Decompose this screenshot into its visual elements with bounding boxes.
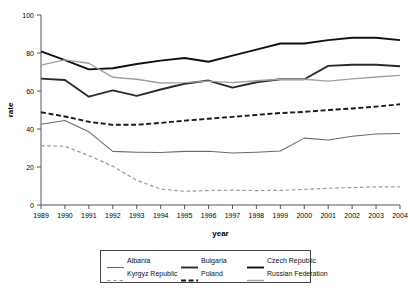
chart-screenshot: 0204060801001989199019911992199319941995… — [0, 0, 410, 297]
x-axis-tick-label: 1989 — [33, 212, 49, 219]
x-axis-tick-label: 1996 — [201, 212, 217, 219]
legend-line-swatch — [107, 257, 124, 264]
series-line-albania — [41, 120, 400, 152]
y-axis-tick-label: 60 — [26, 88, 34, 95]
x-axis-tick-label: 1995 — [177, 212, 193, 219]
series-line-russian-federation — [41, 60, 400, 83]
x-axis-tick-label: 2003 — [368, 212, 384, 219]
legend-item-kyrgyz-republic[interactable]: Kyrgyz Republic — [107, 270, 181, 278]
y-axis-tick-label: 100 — [22, 12, 34, 19]
x-axis-tick-label: 1990 — [57, 212, 73, 219]
chart-canvas: 0204060801001989199019911992199319941995… — [0, 0, 410, 245]
y-axis-title: rate — [6, 102, 15, 117]
x-axis-tick-label: 1991 — [81, 212, 97, 219]
legend-line-swatch — [247, 257, 264, 264]
x-axis-tick-label: 1997 — [225, 212, 241, 219]
legend-label: Czech Republic — [267, 257, 316, 265]
x-axis-tick-label: 2004 — [392, 212, 408, 219]
x-axis-tick-label: 1993 — [129, 212, 145, 219]
x-axis-tick-label: 1998 — [249, 212, 265, 219]
legend-label: Albania — [127, 257, 150, 265]
line-chart-svg: 0204060801001989199019911992199319941995… — [0, 0, 410, 245]
data-series — [41, 38, 400, 192]
y-axis-tick-label: 40 — [26, 126, 34, 133]
y-axis-tick-label: 20 — [26, 164, 34, 171]
x-axis-tick-label: 2002 — [344, 212, 360, 219]
legend-line-swatch — [181, 270, 198, 277]
legend-item-russian-federation[interactable]: Russian Federation — [247, 270, 317, 278]
chart-legend: AlbaniaBulgariaCzech RepublicKyrgyz Repu… — [100, 250, 311, 283]
legend-line-swatch — [247, 270, 264, 277]
x-axis-tick-label: 1999 — [273, 212, 289, 219]
legend-line-swatch — [181, 257, 198, 264]
legend-grid: AlbaniaBulgariaCzech RepublicKyrgyz Repu… — [107, 254, 308, 280]
y-axis-tick-label: 80 — [26, 50, 34, 57]
legend-line-swatch — [107, 270, 124, 277]
y-axis-tick-label: 0 — [30, 202, 34, 209]
legend-label: Bulgaria — [201, 257, 227, 265]
x-axis-tick-label: 1994 — [153, 212, 169, 219]
legend-label: Poland — [201, 270, 223, 278]
legend-label: Kyrgyz Republic — [127, 270, 178, 278]
x-axis-tick-label: 2000 — [296, 212, 312, 219]
axes — [37, 15, 400, 209]
axis-labels: 0204060801001989199019911992199319941995… — [6, 12, 408, 238]
x-axis-tick-label: 2001 — [320, 212, 336, 219]
legend-item-bulgaria[interactable]: Bulgaria — [181, 257, 247, 265]
series-line-poland — [41, 104, 400, 125]
x-axis-tick-label: 1992 — [105, 212, 121, 219]
legend-item-albania[interactable]: Albania — [107, 257, 181, 265]
legend-item-poland[interactable]: Poland — [181, 270, 247, 278]
legend-label: Russian Federation — [267, 270, 328, 278]
x-axis-title: year — [212, 229, 228, 238]
legend-item-czech-republic[interactable]: Czech Republic — [247, 257, 317, 265]
